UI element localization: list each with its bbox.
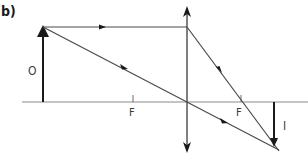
object-label: O: [28, 64, 37, 78]
ray-direction-arrow-icon: [220, 118, 228, 124]
focal-right-label: F: [236, 106, 242, 119]
ray-direction-arrow-icon: [216, 66, 222, 73]
object-arrow: [37, 25, 49, 102]
image-label: I: [283, 119, 286, 133]
central-ray: [43, 27, 279, 150]
panel-label: b): [1, 3, 16, 19]
ray-direction-arrow-icon: [99, 25, 106, 30]
converging-lens: [183, 6, 191, 153]
image-arrow: [270, 102, 278, 147]
ray-direction-arrow-icon: [120, 64, 128, 70]
focal-left-label: F: [129, 106, 135, 119]
lens-ray-diagram: b) O F F I: [0, 0, 308, 159]
